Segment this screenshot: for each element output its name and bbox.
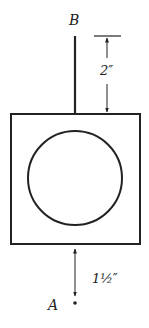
point-a-dot [73, 301, 77, 305]
circle [28, 131, 122, 225]
rod-length-label: 2″ [99, 63, 113, 78]
gap-label: 1½″ [92, 271, 118, 286]
point-b-label: B [68, 12, 79, 28]
diagram-canvas: B 2″ 1½″ A [0, 0, 149, 328]
point-a-label: A [46, 297, 58, 313]
